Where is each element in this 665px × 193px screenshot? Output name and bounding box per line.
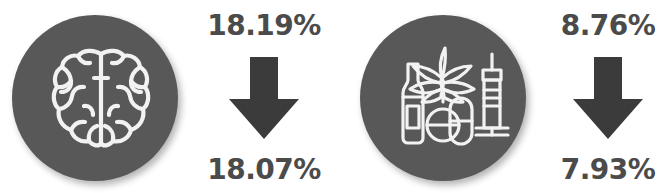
metric-group-substance-use: 8.76% 7.93% xyxy=(356,0,665,193)
value-after: 18.07% xyxy=(207,156,321,184)
metric-group-mental-illness: 18.19% 18.07% xyxy=(8,0,338,193)
change-column-substance-use: 8.76% 7.93% xyxy=(538,4,665,190)
cannabis-leaf-icon xyxy=(410,48,474,102)
infographic-container: 18.19% 18.07% xyxy=(0,0,665,193)
value-before: 8.76% xyxy=(561,12,656,40)
value-before: 18.19% xyxy=(207,12,321,40)
syringe-icon xyxy=(476,54,508,135)
bottle-icon xyxy=(403,64,423,143)
brain-icon xyxy=(41,38,161,158)
icon-badge-mental-illness xyxy=(8,13,190,181)
substance-use-icon xyxy=(389,38,509,158)
value-after: 7.93% xyxy=(561,156,656,184)
pills-icon xyxy=(427,98,472,144)
arrow-down-icon xyxy=(227,55,301,141)
change-column-mental-illness: 18.19% 18.07% xyxy=(190,4,338,190)
arrow-down-icon xyxy=(571,55,645,141)
icon-badge-substance-use xyxy=(356,13,538,181)
